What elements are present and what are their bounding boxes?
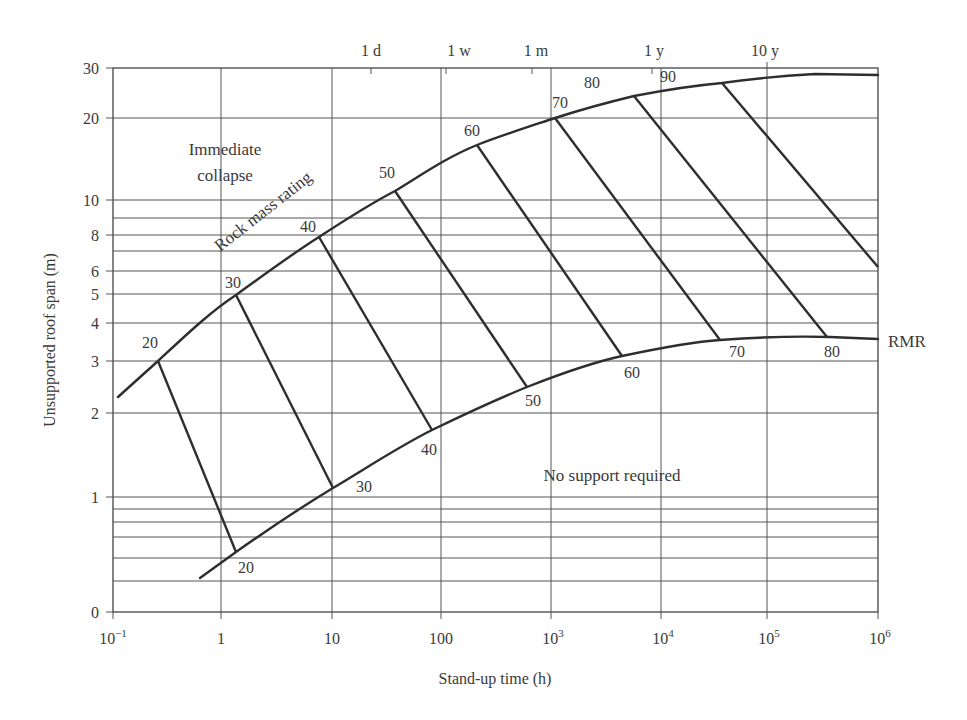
svg-text:30: 30	[356, 478, 372, 495]
rmr-stand-up-time-chart: 30 20 10 8 6 5 4 3 2 1 0 10−1 1 10 100 1…	[0, 0, 967, 720]
svg-text:Immediate: Immediate	[189, 140, 262, 159]
svg-text:90: 90	[660, 68, 676, 85]
svg-text:20: 20	[238, 559, 254, 576]
svg-text:5: 5	[91, 286, 99, 303]
svg-text:20: 20	[83, 110, 99, 127]
svg-text:106: 106	[869, 627, 891, 647]
svg-text:80: 80	[584, 74, 600, 91]
svg-text:1: 1	[91, 489, 99, 506]
rmr-lines	[158, 83, 878, 552]
svg-text:60: 60	[464, 122, 480, 139]
svg-text:6: 6	[91, 263, 99, 280]
svg-text:1: 1	[217, 630, 225, 647]
svg-text:8: 8	[91, 227, 99, 244]
y-axis-title: Unsupported roof span (m)	[41, 253, 59, 427]
svg-text:70: 70	[729, 343, 745, 360]
svg-text:105: 105	[758, 627, 780, 647]
region-labels: Immediate collapse Rock mass rating No s…	[189, 140, 927, 485]
lower-boundary-curve	[200, 337, 878, 578]
svg-text:70: 70	[552, 94, 568, 111]
svg-text:50: 50	[525, 392, 541, 409]
svg-text:80: 80	[824, 343, 840, 360]
svg-text:30: 30	[225, 274, 241, 291]
svg-text:1 w: 1 w	[447, 42, 471, 59]
svg-text:10−1: 10−1	[99, 627, 127, 647]
svg-text:10: 10	[324, 630, 340, 647]
svg-text:1 m: 1 m	[524, 42, 549, 59]
svg-text:10: 10	[83, 192, 99, 209]
upper-rmr-labels: 20 30 40 50 60 70 80 90	[142, 68, 676, 351]
svg-text:RMR: RMR	[888, 332, 926, 351]
lower-rmr-labels: 20 30 40 50 60 70 80	[238, 343, 840, 576]
svg-text:50: 50	[379, 164, 395, 181]
svg-text:1 d: 1 d	[361, 42, 381, 59]
svg-text:40: 40	[300, 218, 316, 235]
svg-text:20: 20	[142, 334, 158, 351]
top-time-labels: 1 d 1 w 1 m 1 y 10 y	[361, 42, 779, 60]
svg-text:104: 104	[652, 627, 674, 647]
x-axis-title: Stand-up time (h)	[439, 670, 552, 688]
svg-text:4: 4	[91, 315, 99, 332]
svg-text:0: 0	[91, 604, 99, 621]
svg-text:2: 2	[91, 405, 99, 422]
svg-text:1 y: 1 y	[644, 42, 664, 60]
svg-text:100: 100	[429, 630, 453, 647]
svg-text:30: 30	[83, 60, 99, 77]
horizontal-gridlines	[113, 118, 878, 581]
svg-text:103: 103	[542, 627, 564, 647]
svg-text:No support required: No support required	[544, 466, 681, 485]
x-tick-labels: 10−1 1 10 100 103 104 105 106	[99, 627, 891, 647]
svg-text:10 y: 10 y	[751, 42, 779, 60]
svg-text:collapse: collapse	[197, 166, 253, 185]
svg-text:60: 60	[624, 364, 640, 381]
svg-text:40: 40	[421, 441, 437, 458]
svg-text:3: 3	[91, 353, 99, 370]
y-tick-labels: 30 20 10 8 6 5 4 3 2 1 0	[83, 60, 99, 621]
